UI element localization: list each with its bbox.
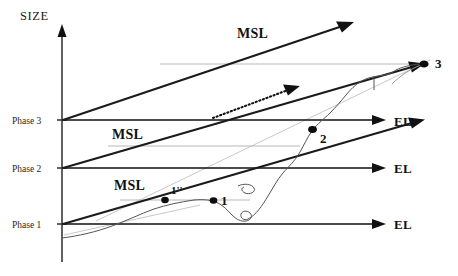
point-dot-1 [210, 197, 218, 203]
y-tick-label-phase-2: Phase 2 [12, 164, 42, 174]
msl-line-top [63, 27, 341, 121]
y-tick-label-phase-3: Phase 3 [12, 116, 42, 126]
el-label-bottom: EL [394, 217, 412, 232]
dotted-arrow-head [283, 85, 300, 96]
point-label-2: 2 [320, 131, 327, 146]
guide-diagonal-lower [64, 205, 200, 235]
point-dot-1-double-prime [161, 197, 169, 203]
msl-label-top: MSL [237, 26, 268, 41]
msl-label-middle: MSL [112, 127, 143, 142]
el-arrowhead-bottom [372, 219, 386, 229]
point-label-1-double-prime: 1'' [171, 184, 183, 196]
schematic-svg: SIZE Phase 3 Phase 2 Phase 1 MSL MSL MSL… [0, 0, 458, 276]
el-label-middle: EL [394, 161, 412, 176]
point-label-3: 3 [435, 56, 442, 71]
el-label-top: EL [394, 114, 412, 129]
data-points [161, 60, 428, 203]
point-dot-2 [308, 126, 317, 133]
msl-label-bottom: MSL [114, 178, 145, 193]
el-arrowhead-top [372, 115, 386, 125]
el-lines [62, 115, 386, 229]
point-dot-3 [419, 60, 428, 67]
point-label-1: 1 [221, 193, 228, 208]
diagram-canvas: SIZE Phase 3 Phase 2 Phase 1 MSL MSL MSL… [0, 0, 458, 276]
guide-diagonal-trend [96, 60, 430, 221]
y-axis [57, 24, 67, 262]
y-axis-arrowhead [58, 24, 67, 37]
el-arrowhead-middle [372, 163, 386, 173]
curve-hook-detail [238, 184, 254, 193]
y-axis-label: SIZE [20, 9, 49, 23]
msl-lines [63, 22, 425, 225]
y-tick-label-phase-1: Phase 1 [12, 220, 42, 230]
